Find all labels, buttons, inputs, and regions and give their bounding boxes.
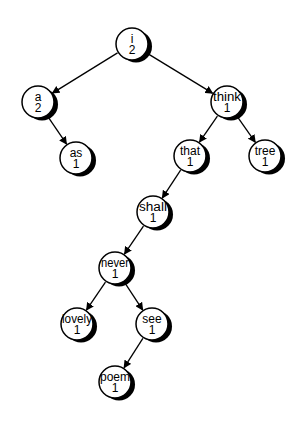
node-count: 2	[129, 43, 136, 57]
tree-node-lovely: lovely1	[61, 308, 97, 342]
tree-node-a: a2	[22, 86, 58, 120]
edge-think-to-that	[200, 116, 218, 142]
node-count: 1	[112, 267, 119, 281]
node-count: 1	[112, 381, 119, 395]
tree-node-never: never1	[99, 252, 135, 286]
tree-node-shall: shall1	[137, 196, 173, 230]
tree-node-i: i2	[116, 28, 152, 62]
edge-i-to-think	[147, 53, 213, 93]
nodes-layer: i2a2think1as1that1tree1shall1never1lovel…	[22, 28, 285, 400]
node-count: 1	[224, 101, 231, 115]
node-count: 1	[74, 323, 81, 337]
edge-i-to-a	[52, 53, 117, 93]
tree-node-poem: poem1	[99, 366, 135, 400]
node-count: 1	[73, 157, 80, 171]
tree-node-that: that1	[174, 140, 210, 174]
tree-node-as: as1	[60, 142, 96, 176]
edge-shall-to-never	[125, 226, 144, 254]
edge-never-to-lovely	[87, 282, 106, 310]
edge-see-to-poem	[124, 338, 143, 367]
edge-a-to-as	[48, 116, 67, 144]
node-count: 1	[262, 155, 269, 169]
binary-tree-diagram: i2a2think1as1that1tree1shall1never1lovel…	[0, 0, 305, 424]
node-count: 2	[35, 101, 42, 115]
tree-node-tree: tree1	[249, 140, 285, 174]
edge-never-to-see	[124, 282, 142, 310]
edge-think-to-tree	[237, 116, 255, 142]
node-count: 1	[149, 323, 156, 337]
node-count: 1	[187, 155, 194, 169]
tree-node-see: see1	[136, 308, 172, 342]
edge-that-to-shall	[162, 170, 180, 198]
node-count: 1	[150, 211, 157, 225]
tree-node-think: think1	[211, 86, 247, 120]
